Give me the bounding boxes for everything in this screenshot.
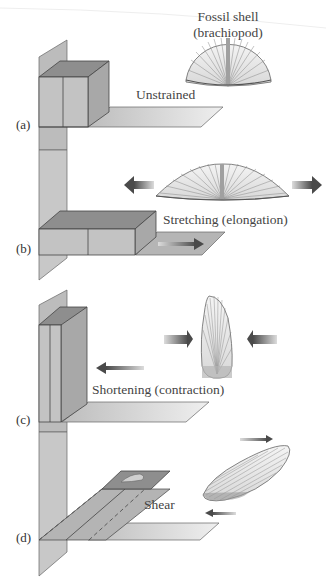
panel-label-a: (a) — [16, 117, 30, 132]
arrow-right-icon — [164, 330, 193, 348]
fossil-label-line1: Fossil shell — [197, 9, 258, 24]
arrow-left-icon — [247, 330, 277, 348]
panel-label-b: (b) — [16, 241, 31, 256]
brachiopod-shell-shortened — [201, 296, 232, 378]
caption-shear: Shear — [144, 497, 175, 512]
arrow-left-icon — [96, 362, 144, 374]
panel-d: (d) Shear — [16, 432, 290, 576]
panel-b: (b) Stretching (elongation) — [16, 150, 322, 280]
panel-c: (c) Shortening (contraction) — [16, 290, 277, 432]
fossil-label-line2: (brachiopod) — [193, 25, 263, 40]
caption-unstrained: Unstrained — [136, 87, 195, 102]
brachiopod-shell-sheared — [203, 446, 290, 501]
arrow-right-icon — [292, 176, 322, 194]
crop-edge — [0, 8, 326, 28]
brachiopod-shell-unstrained — [186, 38, 271, 86]
arrow-right-icon — [240, 435, 273, 443]
block-front — [39, 229, 135, 255]
arrow-left-icon — [124, 176, 154, 194]
arrow-left-icon — [205, 509, 236, 517]
caption-shortening: Shortening (contraction) — [92, 382, 224, 397]
strain-diagram: (a) Unstrained Fossil shell (brachiopod) — [0, 0, 326, 583]
brachiopod-shell-stretched — [156, 164, 289, 200]
block-side — [61, 307, 87, 422]
cube-front — [39, 77, 88, 127]
vertical-plane — [39, 432, 67, 576]
caption-stretching: Stretching (elongation) — [163, 212, 288, 227]
panel-label-d: (d) — [16, 530, 31, 545]
panel-label-c: (c) — [16, 412, 30, 427]
panel-a: (a) Unstrained Fossil shell (brachiopod) — [16, 9, 271, 150]
